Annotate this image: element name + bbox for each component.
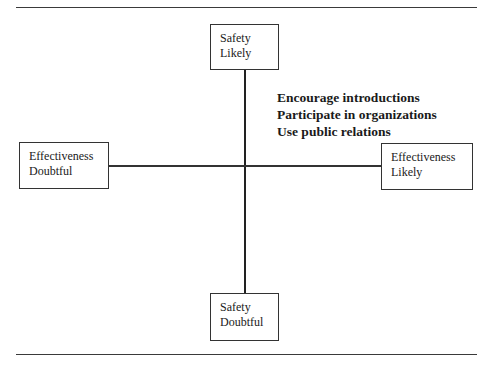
box-label-line1: Effectiveness	[391, 150, 472, 165]
box-label-line1: Safety	[220, 300, 278, 315]
strategy-item: Participate in organizations	[277, 106, 437, 123]
strategy-list: Encourage introductions Participate in o…	[277, 89, 437, 140]
horizontal-axis	[109, 165, 381, 167]
strategy-item: Encourage introductions	[277, 89, 437, 106]
box-label-line1: Safety	[220, 31, 278, 46]
strategy-item: Use public relations	[277, 123, 437, 140]
bottom-rule	[16, 354, 477, 355]
box-label-line2: Likely	[220, 46, 278, 61]
box-effectiveness-doubtful: Effectiveness Doubtful	[19, 142, 109, 189]
top-rule	[16, 7, 477, 8]
box-label-line1: Effectiveness	[29, 149, 108, 164]
vertical-axis	[244, 70, 246, 293]
box-effectiveness-likely: Effectiveness Likely	[381, 143, 473, 190]
box-safety-doubtful: Safety Doubtful	[210, 293, 279, 341]
box-label-line2: Doubtful	[220, 315, 278, 330]
box-label-line2: Doubtful	[29, 164, 108, 179]
box-label-line2: Likely	[391, 165, 472, 180]
box-safety-likely: Safety Likely	[210, 24, 279, 70]
